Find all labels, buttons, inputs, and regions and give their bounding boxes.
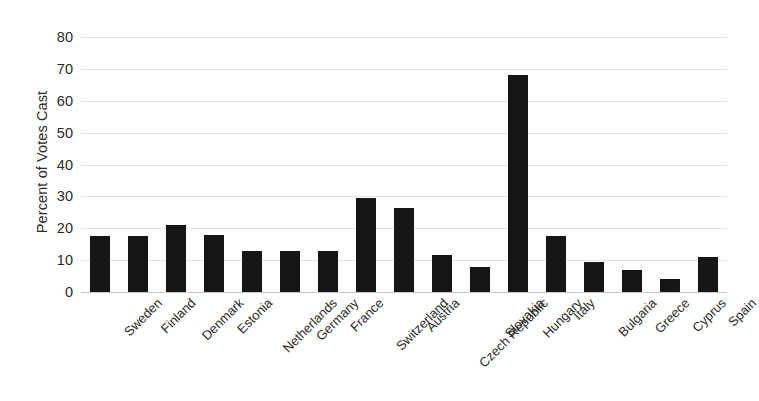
x-tick-label: Cyprus — [690, 296, 729, 335]
y-tick-label: 80 — [33, 30, 73, 45]
y-tick-label: 60 — [33, 94, 73, 109]
bar[interactable] — [660, 279, 680, 292]
bar[interactable] — [128, 236, 148, 292]
bar[interactable] — [432, 255, 452, 292]
bar[interactable] — [622, 270, 642, 292]
bar[interactable] — [470, 267, 490, 293]
bar[interactable] — [90, 236, 110, 292]
y-tick-label: 0 — [33, 285, 73, 300]
x-tick-label: Spain — [726, 296, 759, 329]
y-tick-label: 30 — [33, 189, 73, 204]
bar[interactable] — [508, 75, 528, 292]
x-tick-label: Bulgaria — [616, 296, 659, 339]
y-tick-label: 70 — [33, 62, 73, 77]
y-tick-label: 40 — [33, 157, 73, 172]
y-tick-label: 20 — [33, 221, 73, 236]
x-tick-label: Slovakia — [502, 296, 546, 340]
bar[interactable] — [204, 235, 224, 292]
bar[interactable] — [242, 251, 262, 292]
bar[interactable] — [394, 208, 414, 292]
bar[interactable] — [318, 251, 338, 292]
bar[interactable] — [698, 257, 718, 292]
bar[interactable] — [356, 198, 376, 292]
y-tick-label: 50 — [33, 125, 73, 140]
bar[interactable] — [546, 236, 566, 292]
bar[interactable] — [166, 225, 186, 292]
x-tick-label: Greece — [652, 296, 692, 336]
x-tick-label: Finland — [158, 296, 198, 336]
bars-layer — [81, 37, 727, 292]
bar[interactable] — [584, 262, 604, 292]
y-tick-label: 10 — [33, 253, 73, 268]
x-axis-tick-labels: SwedenFinlandDenmarkEstoniaNetherlandsGe… — [81, 292, 727, 401]
bar[interactable] — [280, 251, 300, 292]
y-axis-tick-labels: 01020304050607080 — [33, 37, 73, 292]
x-tick-label: Sweden — [122, 296, 165, 339]
